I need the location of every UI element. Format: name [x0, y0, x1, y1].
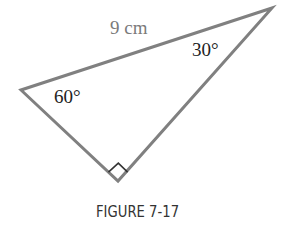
figure-canvas: 9 cm 30° 60° FIGURE 7-17 [0, 0, 283, 231]
angle-30-label: 30° [192, 39, 219, 61]
angle-60-label: 60° [54, 86, 81, 108]
right-angle-marker [109, 163, 128, 172]
figure-caption: FIGURE 7-17 [96, 203, 179, 221]
hypotenuse-length-label: 9 cm [110, 17, 147, 39]
